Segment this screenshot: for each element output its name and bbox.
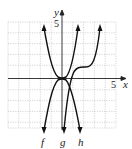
axes (8, 10, 126, 130)
arrow-up-icon (76, 24, 81, 31)
arrow-down-icon (78, 127, 83, 134)
arrow-up-icon (98, 24, 103, 31)
arrow-up-icon (42, 24, 47, 31)
x-max-label: 5 (111, 79, 116, 90)
graph: y 5 x 5 f g h (0, 0, 132, 149)
label-f: f (41, 136, 46, 148)
label-h: h (78, 136, 84, 148)
arrow-down-icon (42, 127, 47, 134)
y-max-label: 5 (54, 18, 59, 29)
y-axis-label: y (53, 6, 59, 18)
y-axis-arrow-icon (60, 10, 64, 15)
arrow-down-icon (62, 127, 67, 134)
label-g: g (60, 136, 66, 148)
x-axis-label: x (122, 78, 128, 90)
